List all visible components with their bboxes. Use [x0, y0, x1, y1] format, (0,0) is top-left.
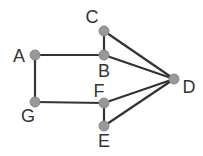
node-c — [99, 26, 109, 36]
node-label-d: D — [183, 77, 196, 97]
edge-f-d — [104, 79, 174, 103]
edge-b-d — [104, 55, 174, 79]
graph-diagram: ABCDFEG — [0, 0, 203, 156]
edge-e-d — [104, 79, 174, 126]
graph-canvas: ABCDFEG — [0, 0, 203, 156]
node-label-g: G — [21, 106, 35, 126]
edge-g-f — [35, 102, 104, 103]
node-label-e: E — [98, 131, 110, 151]
edge-c-d — [104, 31, 174, 79]
node-d — [169, 74, 179, 84]
node-label-f: F — [94, 81, 105, 101]
node-b — [99, 50, 109, 60]
node-label-b: B — [98, 61, 110, 81]
node-label-a: A — [13, 46, 25, 66]
node-label-c: C — [86, 7, 99, 27]
node-e — [99, 121, 109, 131]
node-a — [30, 50, 40, 60]
